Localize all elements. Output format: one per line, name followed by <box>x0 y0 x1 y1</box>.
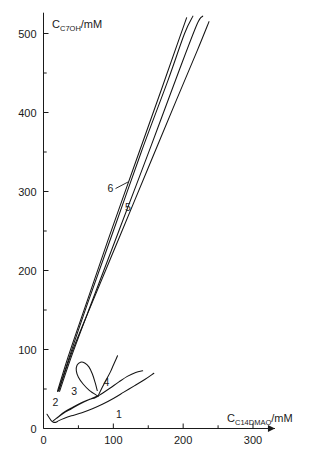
chart-container: 01002003000100200300400500 123456 CC7OH/… <box>0 0 313 465</box>
x-tick-label: 200 <box>174 434 192 446</box>
curve-label-4: 4 <box>103 376 109 388</box>
y-tick-label: 400 <box>18 107 36 119</box>
axes-group <box>44 13 275 432</box>
data-curve <box>76 362 98 396</box>
y-axis-title: CC7OH/mM <box>52 18 102 33</box>
data-curves-group <box>47 16 209 422</box>
y-tick-label: 200 <box>18 265 36 277</box>
curve-label-3: 3 <box>71 385 77 397</box>
svg-text:CC14DMAO/mM: CC14DMAO/mM <box>227 412 293 427</box>
svg-text:CC7OH/mM: CC7OH/mM <box>52 18 102 33</box>
data-curve <box>60 16 203 391</box>
x-tick-label: 0 <box>40 434 46 446</box>
y-tick-label: 300 <box>18 186 36 198</box>
curve-label-2: 2 <box>52 396 58 408</box>
ticks-group <box>44 34 254 429</box>
data-curve <box>59 22 209 391</box>
curve-label-6: 6 <box>108 182 114 194</box>
y-tick-label: 100 <box>18 344 36 356</box>
line-chart: 01002003000100200300400500 123456 CC7OH/… <box>0 0 313 465</box>
x-axis-title: CC14DMAO/mM <box>227 412 293 427</box>
y-tick-label: 0 <box>30 423 36 435</box>
y-tick-label: 500 <box>18 28 36 40</box>
x-tick-label: 300 <box>244 434 262 446</box>
x-tick-label: 100 <box>104 434 122 446</box>
curve-label-5: 5 <box>125 201 131 213</box>
curve-label-1: 1 <box>116 408 122 420</box>
